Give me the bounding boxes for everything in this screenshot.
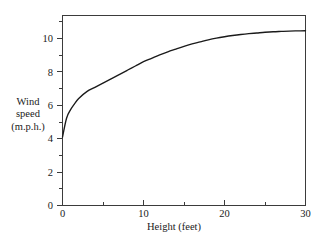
plot-frame [63, 16, 306, 206]
x-tick-label: 0 [60, 208, 65, 219]
y-tick-label: 10 [43, 33, 54, 44]
y-tick-label: 8 [48, 67, 53, 78]
x-tick-label: 10 [138, 208, 149, 219]
y-tick-label: 4 [48, 133, 54, 144]
y-tick-label: 2 [48, 167, 53, 178]
x-tick-label: 20 [219, 208, 230, 219]
x-tick-label: 30 [300, 208, 311, 219]
x-axis-tick-labels: 0 10 20 30 [60, 208, 311, 219]
y-tick-label: 0 [48, 200, 53, 211]
y-axis-title-line3: (m.p.h.) [2, 121, 54, 133]
y-axis-title: Wind speed (m.p.h.) [2, 96, 54, 133]
wind-speed-vs-height-figure: 0 10 20 30 0 2 4 6 8 10 Wind speed (m.p.… [0, 0, 320, 243]
y-axis-title-line1: Wind [2, 96, 54, 108]
x-axis-minor-ticks [103, 202, 265, 206]
y-axis-title-line2: speed [2, 108, 54, 120]
x-axis-title: Height (feet) [0, 221, 320, 233]
wind-speed-curve [63, 31, 306, 137]
